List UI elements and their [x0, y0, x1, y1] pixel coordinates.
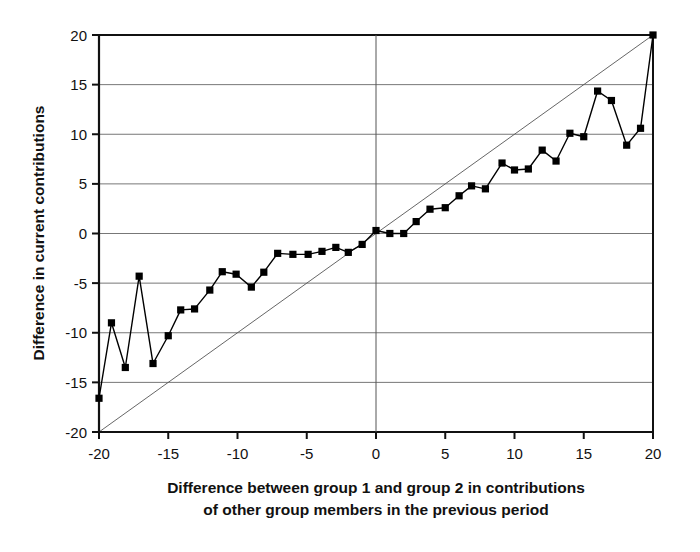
- data-point-marker: [206, 286, 213, 293]
- data-point-marker: [289, 251, 296, 258]
- data-point-marker: [359, 241, 366, 248]
- y-axis-title: Difference in current contributions: [30, 106, 47, 361]
- data-point-marker: [413, 218, 420, 225]
- data-point-marker: [649, 31, 656, 38]
- data-point-marker: [566, 130, 573, 137]
- data-point-marker: [274, 250, 281, 257]
- y-tick-label-5: 5: [79, 175, 87, 192]
- data-point-marker: [149, 360, 156, 367]
- data-point-marker: [525, 165, 532, 172]
- data-point-marker: [219, 268, 226, 275]
- x-axis-tick-labels: -20-15-10-505101520: [88, 445, 661, 462]
- data-point-marker: [136, 273, 143, 280]
- data-point-marker: [637, 125, 644, 132]
- x-tick-label-20: 20: [645, 445, 662, 462]
- y-tick-label-20: 20: [70, 27, 87, 44]
- data-point-marker: [442, 204, 449, 211]
- x-tick-label--20: -20: [88, 445, 110, 462]
- data-point-marker: [332, 244, 339, 251]
- data-point-marker: [345, 249, 352, 256]
- x-tick-label-5: 5: [441, 445, 449, 462]
- data-point-marker: [386, 230, 393, 237]
- data-point-marker: [260, 269, 267, 276]
- x-axis-title-line-1: Difference between group 1 and group 2 i…: [167, 479, 585, 496]
- data-point-marker: [539, 147, 546, 154]
- x-tick-label-15: 15: [575, 445, 592, 462]
- x-tick-label-0: 0: [372, 445, 380, 462]
- data-point-marker: [318, 248, 325, 255]
- x-tick-label--5: -5: [300, 445, 313, 462]
- data-point-marker: [498, 159, 505, 166]
- data-point-marker: [426, 206, 433, 213]
- y-tick-label--5: -5: [74, 275, 87, 292]
- data-point-marker: [191, 305, 198, 312]
- data-point-marker: [165, 332, 172, 339]
- x-tick-label--10: -10: [227, 445, 249, 462]
- data-point-marker: [108, 319, 115, 326]
- y-tick-label--15: -15: [65, 374, 87, 391]
- data-point-marker: [248, 283, 255, 290]
- data-point-marker: [623, 142, 630, 149]
- data-point-marker: [177, 306, 184, 313]
- x-axis-title-line-2: of other group members in the previous p…: [203, 501, 548, 518]
- data-point-marker: [400, 230, 407, 237]
- chart-page: 20151050-5-10-15-20 -20-15-10-505101520 …: [0, 0, 700, 552]
- data-point-marker: [482, 185, 489, 192]
- data-point-marker: [233, 271, 240, 278]
- data-point-marker: [468, 182, 475, 189]
- y-tick-label-0: 0: [79, 225, 87, 242]
- y-tick-label--10: -10: [65, 324, 87, 341]
- scatter-line-chart: 20151050-5-10-15-20 -20-15-10-505101520 …: [0, 0, 700, 552]
- y-tick-label-10: 10: [70, 126, 87, 143]
- data-point-marker: [372, 227, 379, 234]
- data-point-marker: [95, 395, 102, 402]
- data-point-marker: [122, 364, 129, 371]
- data-point-marker: [305, 251, 312, 258]
- data-point-marker: [580, 133, 587, 140]
- data-point-marker: [608, 97, 615, 104]
- y-tick-label--20: -20: [65, 424, 87, 441]
- y-tick-label-15: 15: [70, 76, 87, 93]
- data-point-marker: [511, 166, 518, 173]
- data-point-marker: [594, 87, 601, 94]
- x-tick-label-10: 10: [506, 445, 523, 462]
- data-point-marker: [456, 192, 463, 199]
- x-tick-label--15: -15: [157, 445, 179, 462]
- y-axis-tick-labels: 20151050-5-10-15-20: [65, 27, 87, 441]
- data-point-marker: [552, 157, 559, 164]
